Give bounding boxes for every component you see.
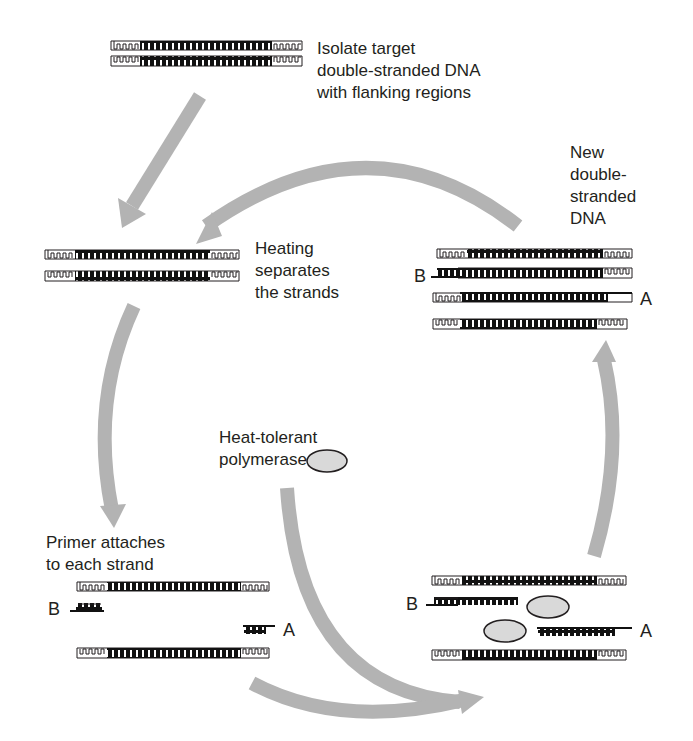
arrowhead-heating-to-primer xyxy=(100,504,126,528)
label-line: Heating xyxy=(255,238,339,260)
dna-strand-top xyxy=(437,249,632,258)
dna-strand-bottom xyxy=(77,648,269,658)
dna-strand-bottom xyxy=(432,650,626,660)
dna-primer xyxy=(70,582,275,658)
label-line: double- xyxy=(570,164,636,186)
label-line: stranded xyxy=(570,186,636,208)
polymerase-enzyme xyxy=(484,620,526,642)
primer-label-a: A xyxy=(640,622,652,640)
label-line: double-stranded DNA xyxy=(317,60,480,82)
label-line: Isolate target xyxy=(317,38,480,60)
label-polymerase: Heat-tolerant polymerase xyxy=(219,427,317,471)
label-primer: Primer attaches to each strand xyxy=(46,532,165,576)
dna-strand-b-new xyxy=(431,268,632,278)
label-isolate: Isolate target double-stranded DNA with … xyxy=(317,38,480,104)
dna-heating xyxy=(45,250,239,281)
label-heating: Heating separates the strands xyxy=(255,238,339,304)
arrows xyxy=(105,96,613,712)
dna-strand-bottom xyxy=(433,319,627,329)
dna-strand-top xyxy=(432,576,626,585)
dna-extension xyxy=(426,576,632,660)
dna-isolate xyxy=(111,41,302,66)
dna-strand-bottom xyxy=(111,56,302,66)
arrow-isolate-to-heating xyxy=(132,96,200,206)
arrowhead-extension-to-new xyxy=(592,340,616,362)
pcr-diagram-canvas xyxy=(0,0,693,741)
primer-a xyxy=(243,625,275,634)
strand-a-extending xyxy=(537,627,632,636)
primer-label-b: B xyxy=(48,600,60,618)
polymerase-enzyme xyxy=(527,596,569,618)
arrow-polymerase-to-extension xyxy=(287,488,460,702)
label-line: with flanking regions xyxy=(317,82,480,104)
label-line: polymerase xyxy=(219,449,317,471)
label-new-dna: New double- stranded DNA xyxy=(570,142,636,230)
dna-strand-top xyxy=(111,41,302,50)
dna-strand-top xyxy=(45,250,239,259)
label-line: New xyxy=(570,142,636,164)
arrow-heating-to-primer xyxy=(105,306,134,510)
primer-b xyxy=(70,603,104,612)
label-line: DNA xyxy=(570,208,636,230)
label-line: the strands xyxy=(255,282,339,304)
primer-label-a: A xyxy=(283,621,295,639)
dna-strand-top xyxy=(77,582,269,591)
primer-label-b: B xyxy=(414,267,426,285)
label-line: Primer attaches xyxy=(46,532,165,554)
label-line: separates xyxy=(255,260,339,282)
dna-strand-bottom xyxy=(45,271,239,281)
dna-new xyxy=(431,249,632,329)
primer-label-a: A xyxy=(640,290,652,308)
label-line: to each strand xyxy=(46,554,165,576)
arrow-new-to-heating xyxy=(206,168,518,226)
primer-label-b: B xyxy=(406,595,418,613)
arrowhead-to-extension xyxy=(458,690,484,714)
label-line: Heat-tolerant xyxy=(219,427,317,449)
strand-b-extending xyxy=(426,597,518,606)
dna-strand-a-new xyxy=(433,292,632,302)
arrow-extension-to-new xyxy=(594,360,612,556)
